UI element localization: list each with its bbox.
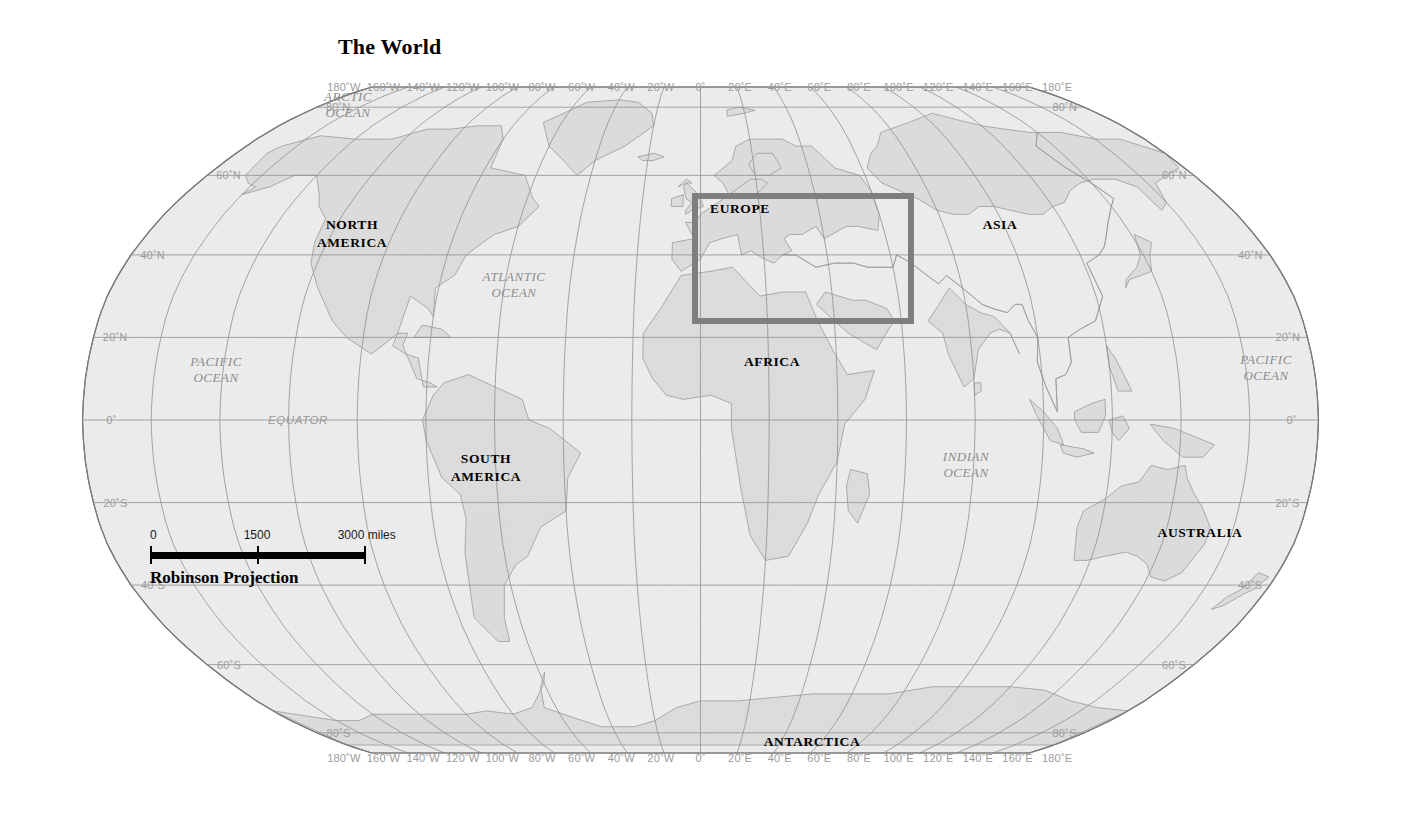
scale-tick-label: 1500 — [244, 528, 271, 542]
world-map-canvas[interactable] — [0, 0, 1403, 827]
scale-tick-3000 — [364, 546, 366, 564]
scale-tick-label: 0 — [150, 528, 157, 542]
projection-label: Robinson Projection — [150, 568, 366, 588]
scale-bar-numbers: 015003000 miles — [150, 528, 366, 544]
europe-highlight-box[interactable] — [692, 193, 914, 324]
scale-tick-label: 3000 miles — [338, 528, 396, 542]
world-map-figure: The World — [0, 0, 1403, 827]
scale-tick-0 — [150, 546, 152, 564]
scale-bar: 015003000 miles Robinson Projection — [150, 528, 366, 588]
scale-bar-rule — [150, 546, 366, 564]
scale-tick-1500 — [257, 546, 259, 564]
